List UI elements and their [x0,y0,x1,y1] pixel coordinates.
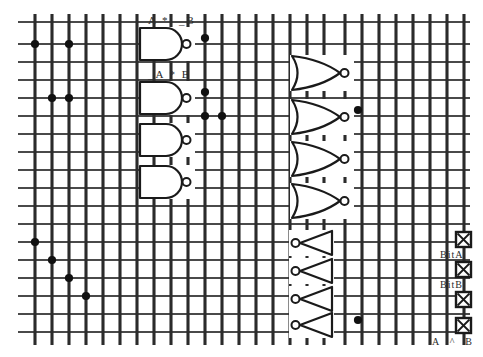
circuit-schematic [0,0,483,357]
nand-gate-3 [140,124,182,156]
nor-gate-2-bubble [341,113,349,121]
junction-d2 [354,316,362,324]
inverter-2-bubble [292,267,300,275]
nand-gate-2 [140,82,182,114]
junction-b2 [65,94,73,102]
schematic-canvas: A * _B_A * BBitABitBA ^ B [0,0,483,357]
junction-e1 [31,238,39,246]
junction-e4 [82,292,90,300]
nand-gate-4-bubble [183,178,191,186]
nand-gate-1-bubble [183,40,191,48]
nor-gate-1-bubble [341,69,349,77]
xor-output-label: A ^ B [432,336,474,347]
junction-b1 [48,94,56,102]
terminal-2-label: BitB [440,279,463,290]
junction-d1 [354,106,362,114]
inverter-1-bubble [292,239,300,247]
nand-gate-4 [140,166,182,198]
junction-c3 [201,88,209,96]
nand-gate-1-label: A * _B [148,14,196,26]
inverter-4-bubble [292,321,300,329]
inverter-3-bubble [292,295,300,303]
nand-gate-2-label: _A * B [148,68,191,80]
nand-gate-2-bubble [183,94,191,102]
junction-a2 [65,40,73,48]
nor-gate-3-bubble [341,155,349,163]
terminal-1-label: BitA [440,249,463,260]
junction-c1 [201,34,209,42]
junction-e3 [65,274,73,282]
nand-gate-1 [140,28,182,60]
junction-e2 [48,256,56,264]
junction-c4 [218,112,226,120]
nor-gate-4-bubble [341,197,349,205]
junction-c2 [201,112,209,120]
junction-a1 [31,40,39,48]
nand-gate-3-bubble [183,136,191,144]
